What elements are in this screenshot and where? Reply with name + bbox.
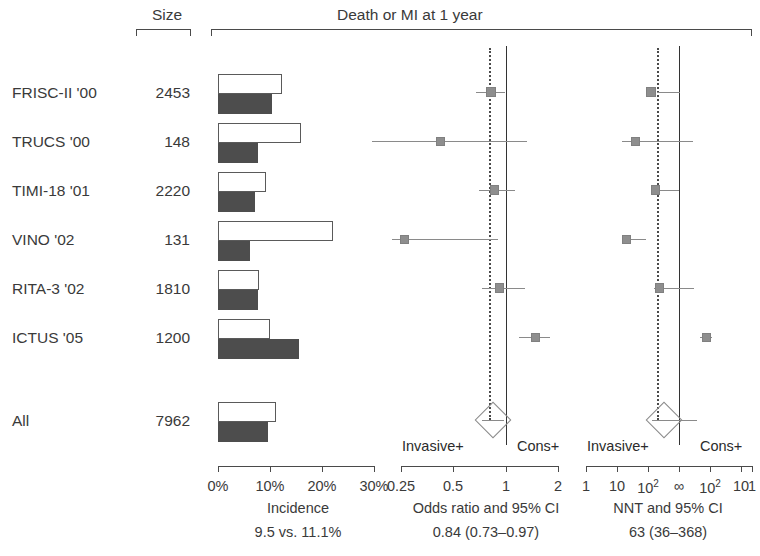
odds-ratio-axis-line bbox=[401, 466, 558, 467]
nnt-tick bbox=[710, 466, 711, 472]
nnt-tick bbox=[679, 466, 680, 472]
nnt-tick bbox=[752, 466, 753, 472]
incidence-bar-filled bbox=[218, 192, 255, 212]
nnt-tick bbox=[617, 466, 618, 472]
incidence-tick-label: 10% bbox=[244, 478, 296, 494]
or-point-estimate bbox=[436, 137, 445, 146]
incidence-tick bbox=[218, 466, 219, 472]
incidence-tick bbox=[270, 466, 271, 472]
nnt-confidence-interval bbox=[657, 92, 681, 93]
size-column-header: Size bbox=[152, 6, 182, 24]
odds-ratio-tick-label: 1 bbox=[480, 478, 532, 494]
incidence-axis-line bbox=[218, 466, 374, 467]
odds-ratio-tick-label: 0.5 bbox=[427, 478, 479, 494]
nnt-point-estimate bbox=[651, 185, 661, 195]
size-header-bracket bbox=[136, 29, 191, 36]
nnt-point-estimate bbox=[702, 333, 711, 342]
nnt-conservative-side-label: Cons+ bbox=[700, 438, 742, 454]
study-label: ICTUS '05 bbox=[12, 329, 83, 347]
study-label: TRUCS '00 bbox=[12, 133, 90, 151]
nnt-footer-title: NNT and 95% CI bbox=[584, 500, 752, 516]
or-point-estimate bbox=[531, 333, 540, 342]
or-invasive-side-label: Invasive+ bbox=[402, 438, 464, 454]
incidence-bar-filled bbox=[218, 94, 272, 114]
or-point-estimate bbox=[400, 235, 409, 244]
study-label: All bbox=[12, 412, 29, 430]
or-pooled-dashed-line bbox=[489, 48, 491, 420]
or-point-estimate bbox=[495, 283, 504, 292]
nnt-tick bbox=[586, 466, 587, 472]
odds-ratio-tick-label: 0.25 bbox=[375, 478, 427, 494]
incidence-tick-label: 20% bbox=[296, 478, 348, 494]
odds-ratio-tick bbox=[401, 466, 402, 472]
odds-ratio-footer-value: 0.84 (0.73–0.97) bbox=[396, 524, 576, 540]
title-bracket bbox=[211, 29, 752, 36]
nnt-footer-value: 63 (36–368) bbox=[584, 524, 752, 540]
nnt-axis-line bbox=[586, 466, 752, 467]
incidence-bar-open bbox=[218, 402, 276, 422]
incidence-bar-filled bbox=[218, 339, 299, 359]
study-size: 2220 bbox=[128, 182, 190, 200]
nnt-tick bbox=[741, 466, 742, 472]
study-label: RITA-3 '02 bbox=[12, 280, 84, 298]
study-size: 1810 bbox=[128, 280, 190, 298]
incidence-bar-open bbox=[218, 172, 266, 192]
nnt-tick-label: 1 bbox=[726, 478, 760, 494]
study-label: FRISC-II '00 bbox=[12, 84, 97, 102]
study-size: 131 bbox=[128, 231, 190, 249]
incidence-footer-value: 9.5 vs. 11.1% bbox=[218, 524, 378, 540]
odds-ratio-tick bbox=[453, 466, 454, 472]
incidence-tick bbox=[374, 466, 375, 472]
nnt-point-estimate bbox=[622, 235, 631, 244]
incidence-tick bbox=[322, 466, 323, 472]
or-conservative-side-label: Cons+ bbox=[517, 438, 559, 454]
incidence-tick-label: 0% bbox=[192, 478, 244, 494]
odds-ratio-footer-title: Odds ratio and 95% CI bbox=[396, 500, 576, 516]
nnt-tick bbox=[648, 466, 649, 472]
incidence-bar-open bbox=[218, 221, 333, 241]
odds-ratio-tick bbox=[506, 466, 507, 472]
incidence-bar-filled bbox=[218, 241, 250, 261]
incidence-bar-open bbox=[218, 319, 270, 339]
study-size: 7962 bbox=[128, 412, 190, 430]
study-label: TIMI-18 '01 bbox=[12, 182, 90, 200]
incidence-bar-open bbox=[218, 270, 259, 290]
incidence-bar-filled bbox=[218, 143, 258, 163]
or-point-estimate bbox=[490, 185, 500, 195]
incidence-bar-filled bbox=[218, 290, 258, 310]
figure-title: Death or MI at 1 year bbox=[337, 6, 483, 24]
study-size: 1200 bbox=[128, 329, 190, 347]
study-size: 148 bbox=[128, 133, 190, 151]
nnt-pooled-dashed-line bbox=[657, 48, 659, 420]
or-pooled-confidence-interval bbox=[482, 420, 503, 421]
incidence-bar-open bbox=[218, 74, 282, 94]
incidence-bar-open bbox=[218, 123, 301, 143]
incidence-bar-filled bbox=[218, 422, 268, 442]
nnt-pooled-confidence-interval bbox=[652, 420, 697, 421]
nnt-reference-line-infinity bbox=[679, 46, 680, 445]
nnt-point-estimate bbox=[631, 137, 640, 146]
study-size: 2453 bbox=[128, 84, 190, 102]
nnt-point-estimate bbox=[655, 283, 664, 292]
incidence-footer-title: Incidence bbox=[218, 500, 378, 516]
or-reference-line-1 bbox=[506, 46, 507, 445]
study-label: VINO '02 bbox=[12, 231, 74, 249]
odds-ratio-tick bbox=[558, 466, 559, 472]
nnt-invasive-side-label: Invasive+ bbox=[587, 438, 649, 454]
nnt-point-estimate bbox=[646, 87, 656, 97]
or-confidence-interval bbox=[372, 141, 527, 142]
or-point-estimate bbox=[486, 87, 496, 97]
